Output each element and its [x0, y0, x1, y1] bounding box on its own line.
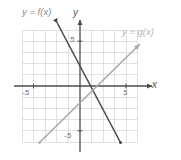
x-tick-label-neg5: -5: [22, 89, 29, 97]
y-axis-label: y: [73, 8, 78, 18]
curve-f-label: y = f(x): [22, 7, 51, 17]
curve-g-label: y = g(x): [122, 27, 154, 37]
axis-lines: [14, 20, 152, 152]
y-tick-label-neg5: -5: [64, 132, 71, 140]
graph-figure: x y -5 5 5 -5 y = f(x) y = g(x): [0, 0, 181, 160]
x-axis-label: x: [152, 80, 157, 90]
curve-f-endpoint: [119, 141, 122, 144]
y-tick-label-pos5: 5: [70, 36, 74, 44]
x-tick-label-pos5: 5: [123, 89, 127, 97]
curve-g-endpoint: [38, 141, 41, 144]
